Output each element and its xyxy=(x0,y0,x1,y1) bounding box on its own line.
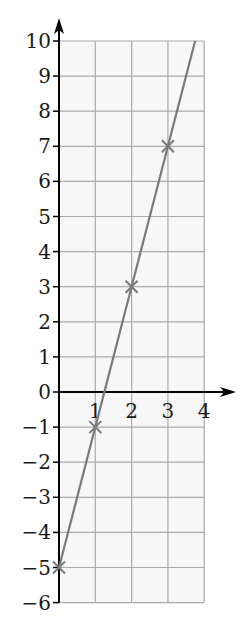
y-tick-label: 5 xyxy=(38,205,51,229)
y-tick-label: 6 xyxy=(38,169,51,193)
y-tick-label: 3 xyxy=(38,275,51,299)
x-tick-label: 2 xyxy=(125,399,138,423)
y-tick-label: −1 xyxy=(22,415,51,439)
x-tick-label: 3 xyxy=(162,399,175,423)
x-tick-label: 4 xyxy=(198,399,211,423)
y-tick-label: −3 xyxy=(22,485,51,509)
y-tick-label: 0 xyxy=(38,380,51,404)
y-tick-label: −5 xyxy=(22,556,51,580)
y-tick-label: 10 xyxy=(26,29,51,53)
y-tick-label: 9 xyxy=(38,64,51,88)
y-tick-label: 8 xyxy=(38,99,51,123)
line-chart: 109876543210−1−2−3−4−5−6 1234 xyxy=(0,0,243,630)
y-tick-label: −2 xyxy=(22,450,51,474)
y-tick-label: 7 xyxy=(38,134,51,158)
y-tick-label: 1 xyxy=(38,345,51,369)
y-tick-label: −4 xyxy=(22,520,51,544)
y-axis-tick-labels: 109876543210−1−2−3−4−5−6 xyxy=(22,29,51,615)
y-tick-label: −6 xyxy=(22,591,51,615)
y-tick-label: 4 xyxy=(38,240,51,264)
y-tick-label: 2 xyxy=(38,310,51,334)
